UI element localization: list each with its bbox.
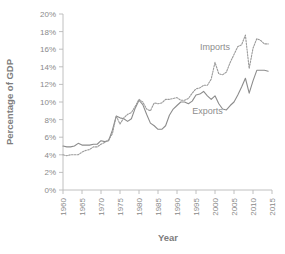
series-line-exports bbox=[63, 70, 268, 147]
chart-container: 0%2%4%6%8%10%12%14%16%18%20% 19601965197… bbox=[0, 0, 285, 254]
x-axis-ticks bbox=[63, 190, 272, 194]
y-axis-ticks bbox=[59, 14, 63, 190]
x-tick-label: 2015 bbox=[268, 197, 277, 215]
y-tick-label: 2% bbox=[44, 168, 56, 177]
y-tick-label: 14% bbox=[40, 63, 56, 72]
y-tick-label: 10% bbox=[40, 98, 56, 107]
series-annotation-exports: Exports bbox=[192, 106, 223, 116]
x-tick-label: 1990 bbox=[173, 197, 182, 215]
data-series-group bbox=[63, 35, 268, 156]
y-tick-label: 6% bbox=[44, 133, 56, 142]
y-tick-label: 0% bbox=[44, 186, 56, 195]
y-tick-label: 20% bbox=[40, 10, 56, 19]
x-tick-label: 1975 bbox=[116, 197, 125, 215]
y-tick-label: 4% bbox=[44, 151, 56, 160]
x-tick-label: 1985 bbox=[154, 197, 163, 215]
x-axis-tick-labels: 1960196519701975198019851990199520002005… bbox=[59, 197, 277, 215]
x-tick-label: 1960 bbox=[59, 197, 68, 215]
series-annotation-imports: Imports bbox=[200, 42, 231, 52]
y-tick-label: 8% bbox=[44, 116, 56, 125]
y-tick-label: 12% bbox=[40, 80, 56, 89]
x-tick-label: 1965 bbox=[78, 197, 87, 215]
y-axis-tick-labels: 0%2%4%6%8%10%12%14%16%18%20% bbox=[40, 10, 56, 195]
x-tick-label: 1970 bbox=[97, 197, 106, 215]
x-axis-title: Year bbox=[158, 232, 178, 243]
y-axis-title: Percentage of GDP bbox=[4, 58, 15, 145]
trade-percentage-of-gdp-line-chart: 0%2%4%6%8%10%12%14%16%18%20% 19601965197… bbox=[0, 0, 285, 254]
x-tick-label: 2000 bbox=[211, 197, 220, 215]
x-tick-label: 2010 bbox=[249, 197, 258, 215]
x-tick-label: 1995 bbox=[192, 197, 201, 215]
y-tick-label: 18% bbox=[40, 28, 56, 37]
x-tick-label: 1980 bbox=[135, 197, 144, 215]
y-tick-label: 16% bbox=[40, 45, 56, 54]
x-tick-label: 2005 bbox=[230, 197, 239, 215]
